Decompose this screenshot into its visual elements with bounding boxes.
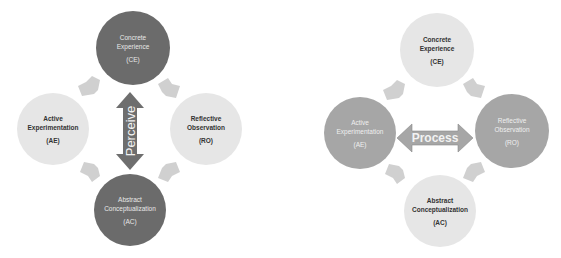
cycle-arrow-ae-to-ce-icon (383, 80, 405, 100)
node-label: Observation (494, 125, 529, 134)
node-abbr: (AC) (433, 218, 447, 227)
node-label: Reflective (191, 114, 222, 123)
node-label: Experience (420, 44, 455, 53)
cycle-arrow-ac-to-ae-icon (385, 164, 405, 184)
node-reflective-observation: Reflective Observation (RO) (170, 93, 242, 165)
node-concrete-experience: Concrete Experience (CE) (400, 13, 474, 87)
node-abstract-conceptualization: Abstract Conceptualization (AC) (404, 175, 476, 247)
node-label: Concrete (423, 35, 451, 44)
node-label: Experimentation (337, 127, 384, 136)
cycle-arrow-ae-to-ce-icon (78, 76, 100, 96)
node-active-experimentation: Active Experimentation (AE) (324, 97, 396, 169)
node-active-experimentation: Active Experimentation (AE) (17, 93, 89, 165)
perceive-label: Perceive (123, 106, 138, 157)
node-label: Concrete (120, 33, 146, 42)
node-label: Observation (187, 123, 225, 132)
node-abbr: (RO) (505, 138, 519, 147)
node-abbr: (CE) (430, 57, 443, 66)
node-label: Abstract (427, 196, 453, 205)
node-label: Reflective (498, 116, 527, 125)
node-label: Abstract (118, 195, 142, 204)
node-abbr: (AE) (354, 140, 367, 149)
node-label: Conceptualization (104, 204, 156, 213)
node-abbr: (AE) (46, 136, 59, 145)
cycle-arrow-ce-to-ro-icon (158, 78, 180, 98)
cycle-arrow-ro-to-ac-icon (463, 162, 485, 182)
node-label: Experience (117, 42, 150, 51)
node-label: Active (351, 118, 369, 127)
cycle-arrow-ce-to-ro-icon (463, 78, 485, 98)
node-abbr: (AC) (123, 217, 136, 226)
cycle-arrow-ac-to-ae-icon (80, 162, 100, 182)
node-label: Active (43, 114, 63, 123)
cycle-arrow-ro-to-ac-icon (158, 162, 180, 182)
node-reflective-observation: Reflective Observation (RO) (475, 94, 549, 168)
perceive-diagram: Concrete Experience (CE) Active Experime… (0, 0, 280, 258)
node-abbr: (RO) (199, 136, 213, 145)
node-concrete-experience: Concrete Experience (CE) (96, 11, 170, 85)
node-label: Conceptualization (412, 205, 468, 214)
node-abbr: (CE) (126, 55, 139, 64)
process-label: Process (412, 131, 459, 145)
node-label: Experimentation (28, 123, 79, 132)
process-diagram: Concrete Experience (CE) Active Experime… (281, 0, 561, 258)
node-abstract-conceptualization: Abstract Conceptualization (AC) (94, 174, 166, 246)
